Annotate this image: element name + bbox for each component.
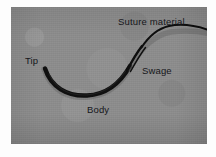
label-swage: Swage (142, 65, 172, 76)
suture-needle-photo-plate: Suture material Tip Swage Body (11, 7, 207, 144)
suture-needle-illustration (11, 7, 207, 144)
needle-shadow-group (44, 31, 207, 97)
swage-outer-line (127, 46, 142, 71)
label-body: Body (87, 104, 109, 115)
needle-shadow-path (44, 31, 207, 97)
figure-root: Suture material Tip Swage Body (0, 0, 216, 157)
label-suture-material: Suture material (118, 16, 185, 27)
label-tip: Tip (25, 55, 38, 66)
